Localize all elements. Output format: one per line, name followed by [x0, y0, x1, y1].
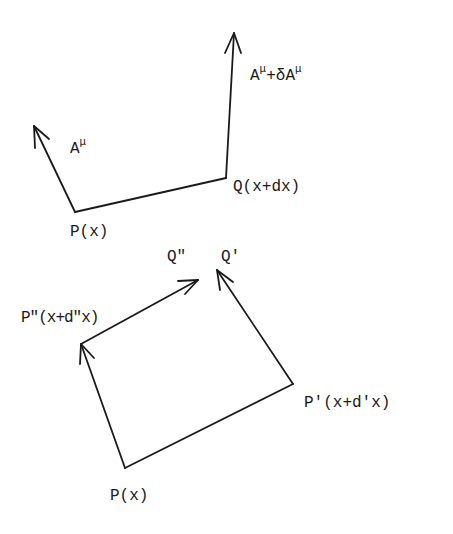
top-diagram: [34, 33, 241, 212]
vector-a-mu: [34, 126, 75, 212]
path-p-to-p-prime: [125, 384, 293, 468]
label-q-x-plus-dx: Q(x+dx): [233, 179, 300, 195]
label-a-base: A: [250, 67, 260, 85]
vector-p-double-to-q-double: [81, 280, 198, 344]
label-p-prime: P'(x+d'x): [304, 395, 390, 411]
parallel-transport-diagram: Aμ Aμ+δAμ Q(x+dx) P(x) Q" Q' P"(x+d"x) P…: [0, 0, 453, 534]
path-p-to-q: [75, 178, 226, 212]
label-a-mu-base: A: [70, 140, 80, 158]
label-plus-delta-a: +δA: [266, 67, 295, 85]
arrowhead-q-double: [178, 280, 198, 294]
label-p-x-top: P(x): [70, 224, 108, 240]
label-mu-sup-2: μ: [295, 63, 302, 75]
label-a-mu-plus-delta-a-mu: Aμ+δAμ: [250, 68, 302, 84]
label-p-x-bottom: P(x): [110, 488, 148, 504]
label-a-mu: Aμ: [70, 141, 86, 157]
label-a-mu-sup: μ: [80, 136, 87, 148]
label-p-double-prime: P"(x+d"x): [21, 310, 98, 326]
path-p-to-p-double: [81, 344, 125, 468]
bottom-diagram: [80, 270, 293, 468]
label-q-prime: Q': [221, 249, 240, 265]
vector-a-mu-plus-delta: [226, 33, 234, 178]
label-mu-sup-1: μ: [260, 63, 267, 75]
diagram-lines: [0, 0, 453, 534]
label-q-double-prime: Q": [167, 249, 186, 265]
vector-p-prime-to-q-prime: [217, 270, 293, 384]
